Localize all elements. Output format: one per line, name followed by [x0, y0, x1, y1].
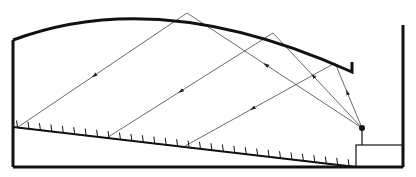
- sound-source: [359, 125, 365, 145]
- diagram-canvas: [0, 0, 416, 177]
- reflective-ceiling: [13, 19, 352, 72]
- sound-rays: [18, 13, 362, 146]
- hall-structure: [13, 19, 403, 167]
- auditorium-diagram: [0, 0, 416, 177]
- reflected-ray: [185, 63, 335, 146]
- seating-floor: [13, 121, 356, 167]
- incident-ray: [335, 63, 362, 128]
- stage-platform: [356, 145, 403, 167]
- reflected-ray: [105, 33, 273, 139]
- sound-source-dot: [359, 125, 365, 131]
